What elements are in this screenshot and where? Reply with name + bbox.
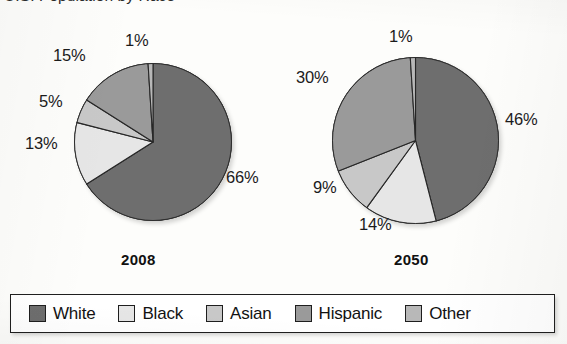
pie-2008-label-hispanic: 15% — [53, 46, 85, 65]
pie-2050-label-other: 1% — [389, 27, 412, 46]
legend-swatch-hispanic — [295, 305, 312, 322]
pie-2008-svg — [74, 63, 232, 221]
legend-label-hispanic: Hispanic — [319, 304, 383, 324]
pie-2008-label-asian: 5% — [39, 92, 62, 111]
legend-swatch-black — [118, 305, 135, 322]
legend-item-black: Black — [118, 304, 183, 324]
legend-label-black: Black — [142, 304, 183, 324]
legend-item-asian: Asian — [206, 304, 272, 324]
pie-2008-graphic — [74, 63, 232, 221]
legend-label-other: Other — [429, 304, 471, 324]
legend-item-hispanic: Hispanic — [295, 304, 383, 324]
pie-2050-label-hispanic: 30% — [296, 68, 328, 87]
pie-2008-label-black: 13% — [25, 134, 57, 153]
pie-2008-label-white: 66% — [226, 168, 258, 187]
pie-2050-label-asian: 9% — [313, 178, 336, 197]
legend-swatch-asian — [206, 305, 223, 322]
legend-swatch-other — [405, 305, 422, 322]
legend-label-white: White — [53, 304, 95, 324]
legend-item-white: White — [29, 304, 95, 324]
pie-2008-year-caption: 2008 — [121, 251, 156, 268]
pie-2050-svg — [332, 57, 499, 224]
legend-swatch-white — [29, 305, 46, 322]
legend-label-asian: Asian — [230, 304, 272, 324]
pie-2008-label-other: 1% — [125, 31, 148, 50]
pie-2050-label-black: 14% — [359, 215, 391, 234]
chart-legend: WhiteBlackAsianHispanicOther — [10, 294, 555, 333]
pie-2050-graphic — [332, 57, 499, 224]
legend-item-other: Other — [405, 304, 471, 324]
pie-2050-year-caption: 2050 — [394, 251, 429, 268]
figure-container: U.S. Population by Race 15% 1% 5% 13% 66… — [0, 0, 567, 344]
page-title: U.S. Population by Race — [4, 0, 175, 5]
pie-2050-label-white: 46% — [505, 110, 537, 129]
